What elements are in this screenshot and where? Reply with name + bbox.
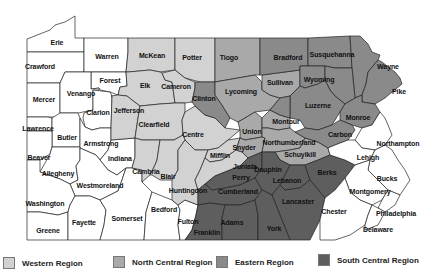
county-label-indiana: Indiana bbox=[108, 155, 132, 162]
county-label-tiogo: Tiogo bbox=[220, 54, 238, 61]
county-label-bucks: Bucks bbox=[377, 175, 398, 182]
county-label-greene: Greene bbox=[36, 227, 60, 234]
county-label-armstrong: Armstrong bbox=[84, 140, 119, 147]
county-label-mercer: Mercer bbox=[33, 96, 55, 103]
county-label-somerset: Somerset bbox=[111, 215, 142, 222]
county-label-lehigh: Lehigh bbox=[357, 154, 379, 161]
county-label-union: Union bbox=[242, 128, 261, 135]
county-label-cameron: Cameron bbox=[161, 83, 191, 90]
map-legend: Western Region North Central Region East… bbox=[0, 252, 433, 279]
county-label-warren: Warren bbox=[95, 53, 118, 60]
county-label-pike: Pike bbox=[392, 88, 406, 95]
county-label-clarion: Clarion bbox=[86, 109, 109, 116]
county-label-dauphin: Dauphin bbox=[254, 166, 281, 173]
county-label-potter: Potter bbox=[182, 54, 202, 61]
county-label-northampton: Northampton bbox=[377, 140, 420, 147]
county-label-jefferson: Jefferson bbox=[114, 107, 145, 114]
county-label-blair: Blair bbox=[160, 173, 175, 180]
county-label-adams: Adams bbox=[221, 219, 244, 226]
county-label-chester: Chester bbox=[321, 208, 346, 215]
legend-item-eastern: Eastern Region bbox=[216, 256, 294, 268]
county-label-snyder: Snyder bbox=[232, 144, 255, 151]
county-label-elk: Elk bbox=[140, 82, 150, 89]
county-label-lebanon: Lebanon bbox=[273, 177, 301, 184]
county-label-wayne: Wayne bbox=[377, 63, 399, 70]
county-label-washington: Washington bbox=[26, 200, 65, 207]
county-label-northumberland: Northumberland bbox=[262, 139, 315, 146]
county-label-westmoreland: Westmoreland bbox=[77, 182, 124, 189]
legend-item-south-central: South Central Region bbox=[318, 254, 419, 266]
county-label-clearfield: Clearfield bbox=[139, 121, 170, 128]
legend-swatch-eastern bbox=[216, 256, 228, 268]
legend-item-western: Western Region bbox=[3, 257, 83, 269]
county-erie bbox=[27, 16, 84, 52]
county-label-cambria: Cambria bbox=[132, 168, 159, 175]
county-label-york: York bbox=[267, 225, 282, 232]
county-label-lawrence: Lawrence bbox=[22, 125, 54, 132]
county-label-lycoming: Lycoming bbox=[225, 88, 257, 95]
county-butler bbox=[52, 113, 80, 147]
county-label-monroe: Monroe bbox=[346, 114, 371, 121]
county-label-philadelphia: Philadelphia bbox=[376, 210, 416, 217]
county-label-crawford: Crawford bbox=[25, 63, 55, 70]
county-label-lancaster: Lancaster bbox=[282, 198, 314, 205]
county-label-carbon: Carbon bbox=[328, 131, 352, 138]
county-label-centre: Centre bbox=[182, 131, 204, 138]
legend-label: Eastern Region bbox=[235, 258, 294, 267]
county-label-berks: Berks bbox=[318, 169, 337, 176]
pennsylvania-region-map bbox=[0, 0, 433, 250]
county-label-venango: Venango bbox=[67, 90, 95, 97]
legend-swatch-western bbox=[3, 257, 15, 269]
county-label-cumberland: Cumberland bbox=[218, 188, 258, 195]
legend-swatch-north-central bbox=[113, 256, 125, 268]
county-label-clinton: Clinton bbox=[192, 95, 215, 102]
county-label-beaver: Beaver bbox=[28, 154, 51, 161]
county-label-fayette: Fayette bbox=[72, 219, 96, 226]
county-label-perry: Perry bbox=[232, 174, 249, 181]
county-label-allegheny: Allegheny bbox=[42, 170, 75, 177]
legend-label: South Central Region bbox=[337, 256, 419, 265]
county-label-mifflin: Mifflin bbox=[210, 152, 230, 159]
county-label-huntingdon: Huntingdon bbox=[169, 187, 207, 194]
county-label-juniata: Juniata bbox=[233, 163, 257, 170]
county-label-bedford: Bedford bbox=[151, 206, 177, 213]
county-label-fulton: Fulton bbox=[178, 218, 199, 225]
county-label-delaware: Delaware bbox=[363, 226, 393, 233]
county-label-franklin: Franklin bbox=[194, 229, 220, 236]
legend-label: Western Region bbox=[22, 259, 83, 268]
county-label-wyoming: Wyoming bbox=[304, 76, 335, 83]
county-label-montgomery: Montgomery bbox=[349, 188, 390, 195]
county-label-montour: Montour bbox=[272, 118, 299, 125]
county-label-luzerne: Luzerne bbox=[305, 102, 331, 109]
county-label-schuylkill: Schuylkill bbox=[284, 151, 316, 158]
county-label-mckean: McKean bbox=[139, 52, 165, 59]
legend-swatch-south-central bbox=[318, 254, 330, 266]
county-label-bradford: Bradford bbox=[274, 54, 303, 61]
legend-label: North Central Region bbox=[132, 258, 212, 267]
county-label-erie: Erie bbox=[51, 39, 64, 46]
county-label-forest: Forest bbox=[100, 77, 121, 84]
county-label-sullivan: Sullivan bbox=[267, 79, 293, 86]
county-label-butler: Butler bbox=[57, 134, 77, 141]
county-label-susquehanna: Susquehanna bbox=[310, 51, 355, 58]
legend-item-north-central: North Central Region bbox=[113, 256, 212, 268]
